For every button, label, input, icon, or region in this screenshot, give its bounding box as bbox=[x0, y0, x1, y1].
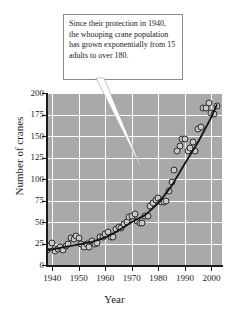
x-tick-label: 1990 bbox=[171, 273, 199, 283]
x-tick-mark bbox=[52, 266, 53, 271]
whooping-crane-chart-figure: 0255075100125150175200 19401950196019701… bbox=[0, 0, 229, 319]
x-tick-mark bbox=[185, 266, 186, 271]
y-tick-label: 0 bbox=[18, 261, 44, 270]
x-axis-line bbox=[46, 265, 223, 267]
x-tick-mark bbox=[132, 266, 133, 271]
annotation-callout-box: Since their protection in 1940, the whoo… bbox=[63, 14, 183, 80]
x-tick-label: 2000 bbox=[197, 273, 225, 283]
x-tick-label: 1980 bbox=[144, 273, 172, 283]
x-tick-label: 1950 bbox=[65, 273, 93, 283]
x-tick-label: 1940 bbox=[38, 273, 66, 283]
x-axis-title: Year bbox=[0, 293, 229, 305]
x-tick-mark bbox=[211, 266, 212, 271]
y-tick-label: 25 bbox=[18, 239, 44, 248]
exponential-trend-curve bbox=[47, 93, 222, 265]
x-tick-label: 1960 bbox=[91, 273, 119, 283]
plot-area bbox=[47, 93, 222, 265]
y-axis-title: Number of cranes bbox=[13, 91, 25, 221]
x-tick-label: 1970 bbox=[118, 273, 146, 283]
x-tick-mark bbox=[158, 266, 159, 271]
x-tick-mark bbox=[105, 266, 106, 271]
x-tick-mark bbox=[79, 266, 80, 271]
